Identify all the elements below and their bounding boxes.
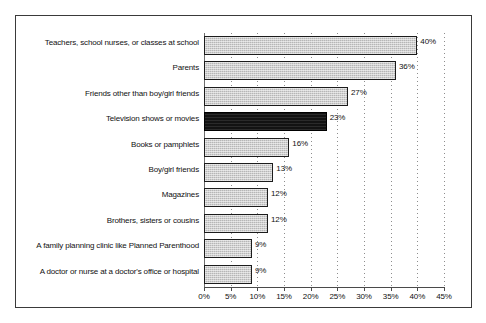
bar [204, 188, 268, 207]
x-tick-label: 15% [276, 292, 292, 301]
bar-value-label: 27% [351, 88, 367, 97]
bar [204, 214, 268, 233]
category-label: Books or pamphlets [131, 140, 199, 149]
bar [204, 61, 396, 80]
x-tick [204, 287, 205, 291]
bar-value-label: 40% [420, 37, 436, 46]
category-label: Brothers, sisters or cousins [107, 216, 199, 225]
x-tick-label: 5% [225, 292, 236, 301]
x-tick-label: 40% [409, 292, 425, 301]
x-axis: 0%5%10%15%20%25%30%35%40%45% [204, 287, 444, 288]
bar-row: Friends other than boy/girl friends27% [204, 84, 444, 109]
x-tick-label: 30% [356, 292, 372, 301]
bar [204, 265, 252, 284]
category-label: Friends other than boy/girl friends [85, 89, 199, 98]
x-tick-label: 35% [383, 292, 399, 301]
bar-value-label: 9% [255, 266, 266, 275]
bar [204, 138, 289, 157]
bar [204, 163, 273, 182]
bar-value-label: 16% [292, 139, 308, 148]
x-tick [391, 287, 392, 291]
bar [204, 239, 252, 258]
category-label: Television shows or movies [106, 114, 199, 123]
x-tick-label: 20% [303, 292, 319, 301]
x-tick-label: 0% [198, 292, 209, 301]
gridline-45 [444, 33, 445, 287]
bar-value-label: 36% [399, 62, 415, 71]
bar [204, 87, 348, 106]
category-label: Boy/girl friends [148, 165, 199, 174]
bar-row: Television shows or movies23% [204, 109, 444, 134]
bar [204, 112, 327, 131]
bar-value-label: 9% [255, 240, 266, 249]
x-tick [284, 287, 285, 291]
category-label: Magazines [162, 190, 199, 199]
bar-row: Brothers, sisters or cousins12% [204, 211, 444, 236]
bar-row: A doctor or nurse at a doctor's office o… [204, 262, 444, 287]
x-tick [364, 287, 365, 291]
bar-row: Teachers, school nurses, or classes at s… [204, 33, 444, 58]
x-tick [257, 287, 258, 291]
x-tick [231, 287, 232, 291]
category-label: Teachers, school nurses, or classes at s… [45, 38, 199, 47]
bar-value-label: 13% [276, 164, 292, 173]
x-tick-label: 25% [329, 292, 345, 301]
category-label: A family planning clinic like Planned Pa… [36, 241, 199, 250]
x-tick-label: 45% [436, 292, 452, 301]
x-tick-label: 10% [249, 292, 265, 301]
x-tick [444, 287, 445, 291]
bar-row: A family planning clinic like Planned Pa… [204, 236, 444, 261]
chart-frame: Teachers, school nurses, or classes at s… [15, 15, 472, 308]
bar-row: Parents36% [204, 58, 444, 83]
category-label: A doctor or nurse at a doctor's office o… [40, 267, 199, 276]
bar [204, 36, 417, 55]
plot-area: Teachers, school nurses, or classes at s… [204, 33, 444, 287]
bar-row: Boy/girl friends13% [204, 160, 444, 185]
bar-row: Magazines12% [204, 185, 444, 210]
bar-value-label: 12% [271, 189, 287, 198]
x-tick [417, 287, 418, 291]
bar-value-label: 12% [271, 215, 287, 224]
bar-value-label: 23% [330, 113, 346, 122]
category-label: Parents [172, 63, 199, 72]
bar-row: Books or pamphlets16% [204, 135, 444, 160]
x-tick [337, 287, 338, 291]
x-tick [311, 287, 312, 291]
